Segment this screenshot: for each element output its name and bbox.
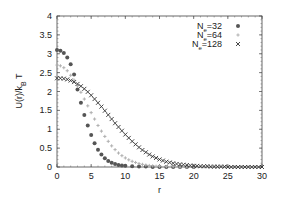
y-tick-label: 4 [47, 11, 52, 21]
x-axis-label: r [158, 185, 161, 195]
legend-marker-icon [236, 33, 239, 36]
legend-marker-icon [236, 42, 240, 46]
y-tick-label: 0.5 [39, 143, 52, 153]
x-tick-label: 20 [189, 171, 199, 181]
legend-marker-icon [236, 24, 240, 28]
y-axis: 00.511.522.533.54 [39, 11, 262, 172]
y-tick-label: 2 [47, 87, 52, 97]
x-tick-label: 5 [89, 171, 94, 181]
y-tick-label: 2.5 [39, 68, 52, 78]
legend-label: Ne=128 [192, 39, 222, 51]
x-tick-label: 15 [154, 171, 164, 181]
x-tick-label: 10 [120, 171, 130, 181]
y-tick-label: 3.5 [39, 30, 52, 40]
x-axis: 051015202530 [54, 16, 267, 181]
x-tick-label: 0 [54, 171, 59, 181]
legend: Ne=32Ne=64Ne=128 [192, 21, 240, 51]
y-axis-label: U(r)/kB T [14, 73, 27, 109]
series-ne-32 [55, 48, 196, 169]
svg-text:U(r)/kB T: U(r)/kB T [14, 73, 27, 109]
y-tick-label: 1 [47, 124, 52, 134]
data-series [55, 48, 264, 169]
y-tick-label: 0 [47, 162, 52, 172]
y-tick-label: 3 [47, 49, 52, 59]
series-ne-64 [55, 63, 195, 168]
series-ne-128 [55, 76, 264, 169]
x-tick-label: 30 [257, 171, 267, 181]
chart: 00.511.522.533.54 051015202530 Ne=32Ne=6… [0, 0, 281, 200]
y-tick-label: 1.5 [39, 105, 52, 115]
x-tick-label: 25 [223, 171, 233, 181]
